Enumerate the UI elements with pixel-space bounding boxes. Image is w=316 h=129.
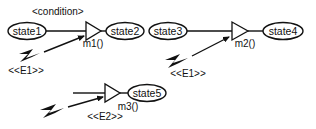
lightning-bolt-icon [40, 104, 64, 118]
state2-label: state2 [111, 25, 140, 37]
state1-node[interactable]: state1 [8, 23, 46, 40]
state-transition-diagram: <condition> state1 state2 m1() <<E1>> st… [0, 0, 316, 129]
lightning-bolt-icon [19, 49, 40, 62]
transition-1: <condition> state1 state2 m1() <<E1>> [8, 6, 144, 76]
state1-label: state1 [13, 25, 42, 37]
event-arrow [68, 97, 103, 107]
event-e1-label: <<E1>> [8, 65, 44, 76]
state2-node[interactable]: state2 [106, 23, 144, 40]
transition-3: state5 m3() <<E2>> [40, 84, 166, 122]
transition-2: state3 state4 m2() <<E1>> [149, 22, 303, 79]
triangle-icon [105, 84, 120, 102]
guard-condition-label: <condition> [32, 6, 84, 17]
lightning-bolt-icon [165, 54, 188, 68]
event-e2-label: <<E2>> [87, 111, 123, 122]
state3-label: state3 [154, 25, 183, 37]
event-arrow [44, 36, 84, 52]
state4-node[interactable]: state4 [263, 23, 303, 40]
state4-label: state4 [269, 25, 298, 37]
event-arrow [192, 37, 229, 56]
state5-node[interactable]: state5 [128, 85, 166, 102]
state3-node[interactable]: state3 [149, 23, 187, 40]
state5-label: state5 [133, 87, 162, 99]
event-e1-label: <<E1>> [170, 68, 206, 79]
method-m2-label: m2() [235, 38, 256, 49]
method-m1-label: m1() [83, 38, 104, 49]
